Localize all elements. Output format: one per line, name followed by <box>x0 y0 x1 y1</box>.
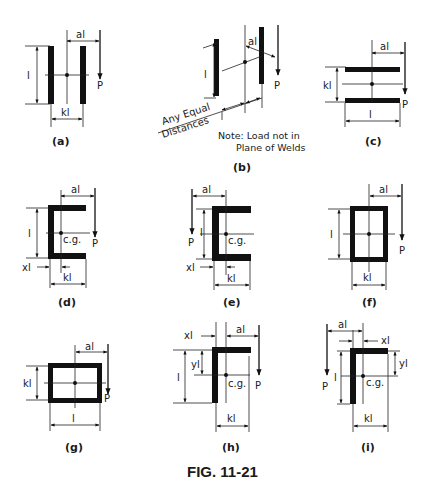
panel-i: c.g. al P xl l yl kl (i) <box>322 319 408 454</box>
dim-label-xl: xl <box>22 262 31 273</box>
dim-label-al: al <box>71 184 80 195</box>
dim-label-kl: kl <box>364 413 373 424</box>
panel-f: l al P kl (f) <box>328 184 405 309</box>
panel-caption: (e) <box>223 296 241 309</box>
cg-label: c.g. <box>63 234 81 245</box>
dim-label-al: al <box>202 184 211 195</box>
load-label: P <box>104 393 110 404</box>
dim-label-al: al <box>380 41 389 52</box>
cg-label: c.g. <box>228 378 246 389</box>
centroid-dot <box>65 73 69 77</box>
panel-a: l al P kl (a) <box>25 29 103 148</box>
centroid-dot <box>370 82 374 86</box>
panel-h: c.g. xl al P l yl kl (h) <box>173 322 261 454</box>
dim-label-yl: yl <box>191 359 200 370</box>
weld-line <box>345 67 400 72</box>
dim-label-l: l <box>369 109 372 120</box>
panel-caption: (a) <box>52 135 69 148</box>
panel-caption: (g) <box>65 441 83 454</box>
dim-label-kl: kl <box>63 272 72 283</box>
note-text: Note: Load not in <box>218 130 300 141</box>
panel-caption: (b) <box>233 161 251 174</box>
dim-label-kl: kl <box>363 272 372 283</box>
cg-label: c.g. <box>228 235 246 246</box>
centroid-dot <box>367 232 371 236</box>
dim-label-xl: xl <box>184 330 193 341</box>
weld-group-figure: l al P kl (a) l al P An <box>0 0 427 494</box>
centroid-dot <box>224 373 228 377</box>
load-label: P <box>399 245 405 256</box>
load-label: P <box>402 99 408 110</box>
dim-label-yl: yl <box>399 358 408 369</box>
dim-label-kl: kl <box>61 107 70 118</box>
dim-label-al: al <box>76 29 85 40</box>
centroid-dot <box>73 381 77 385</box>
panel-caption: (d) <box>58 296 76 309</box>
weld-line <box>259 27 264 84</box>
panel-caption: (f) <box>362 296 377 309</box>
panel-caption: (i) <box>361 441 375 454</box>
dim-label-xl: xl <box>381 335 390 346</box>
load-label: P <box>322 381 328 392</box>
centroid-dot <box>361 374 365 378</box>
panel-c: kl al P l (c) <box>323 40 408 148</box>
figure-title: FIG. 11-21 <box>187 463 258 480</box>
dim-label-al: al <box>85 341 94 352</box>
dim-label-al: al <box>236 324 245 335</box>
channel-weld <box>48 205 86 259</box>
weld-line <box>345 98 400 103</box>
dim-label-kl: kl <box>323 80 332 91</box>
load-label: P <box>188 237 194 248</box>
dim-label-l: l <box>200 227 203 238</box>
weld-line <box>214 39 219 96</box>
dim-label-l: l <box>27 70 30 81</box>
load-label: P <box>92 238 98 249</box>
dim-label-l: l <box>204 69 207 80</box>
load-label: P <box>274 80 280 91</box>
dim-label-l: l <box>330 229 333 240</box>
dim-label-xl: xl <box>186 262 195 273</box>
dim-label-l: l <box>72 413 75 424</box>
dim-label-kl: kl <box>227 273 236 284</box>
dim-label-l: l <box>28 228 31 239</box>
load-label: P <box>255 380 261 391</box>
panel-b: l al P Any Equal Distances Note: Load no… <box>158 25 306 174</box>
panel-d: c.g. l al P xl kl (d) <box>22 184 98 309</box>
dim-label-al: al <box>379 184 388 195</box>
dim-label-al: al <box>248 36 257 47</box>
dim-label-al: al <box>338 319 347 330</box>
dim-label-kl: kl <box>23 378 32 389</box>
panel-g: kl al P l (g) <box>23 341 110 454</box>
channel-weld <box>212 206 251 261</box>
panel-e: c.g. l al P xl kl (e) <box>186 184 254 309</box>
dim-label-kl: kl <box>227 413 236 424</box>
note-text: Plane of Welds <box>236 142 306 153</box>
panel-caption: (h) <box>222 441 240 454</box>
dim-label-l: l <box>177 372 180 383</box>
panel-caption: (c) <box>365 135 382 148</box>
cg-label: c.g. <box>366 377 384 388</box>
load-label: P <box>97 80 103 91</box>
dim-label-l: l <box>334 372 337 383</box>
centroid-dot <box>243 60 247 64</box>
